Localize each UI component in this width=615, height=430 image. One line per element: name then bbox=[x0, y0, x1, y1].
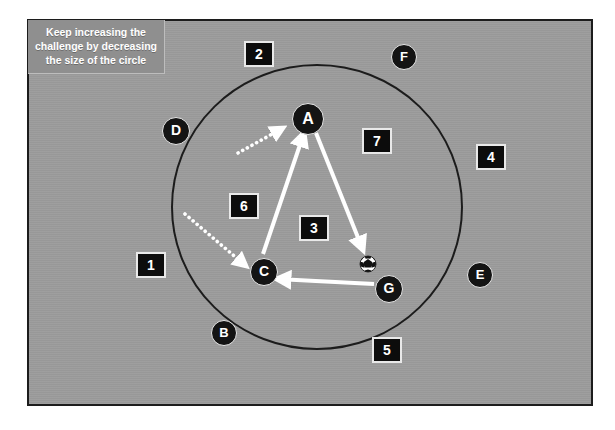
player-marker-F: F bbox=[391, 44, 417, 70]
player-marker-E: E bbox=[467, 262, 493, 288]
playing-field bbox=[27, 19, 593, 406]
player-marker-C: C bbox=[250, 258, 278, 286]
instruction-text: Keep increasing the challenge by decreas… bbox=[35, 26, 157, 66]
cone-marker-6: 6 bbox=[229, 193, 259, 219]
cone-marker-4: 4 bbox=[476, 144, 506, 170]
player-marker-G: G bbox=[375, 275, 403, 303]
player-marker-D: D bbox=[162, 117, 190, 145]
instruction-callout: Keep increasing the challenge by decreas… bbox=[28, 20, 165, 74]
cone-marker-7: 7 bbox=[362, 128, 392, 154]
player-marker-A: A bbox=[292, 103, 324, 135]
cone-marker-1: 1 bbox=[136, 252, 166, 278]
player-marker-B: B bbox=[211, 320, 237, 346]
diagram-stage: Keep increasing the challenge by decreas… bbox=[0, 0, 615, 430]
cone-marker-5: 5 bbox=[372, 337, 402, 363]
cone-marker-2: 2 bbox=[244, 41, 274, 67]
cone-marker-3: 3 bbox=[299, 215, 329, 241]
